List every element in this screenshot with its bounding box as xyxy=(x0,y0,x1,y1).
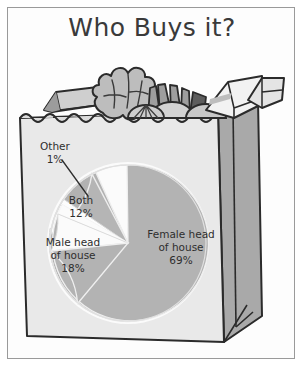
bag-side-panel xyxy=(218,100,262,342)
pie-label-female-percent: 69% xyxy=(134,254,228,267)
pie-label-male: Male head of house 18% xyxy=(32,236,114,274)
pie-label-both: Both 12% xyxy=(52,194,110,220)
poster-canvas: Who Buys it? Other 1% Both 12% Male head… xyxy=(0,0,304,368)
pie-label-male-line2: of house xyxy=(32,249,114,262)
pie-label-male-percent: 18% xyxy=(32,262,114,275)
pie-label-female-line2: of house xyxy=(134,241,228,254)
pie-label-female-line1: Female head xyxy=(134,228,228,241)
pie-label-other-percent: 1% xyxy=(26,153,84,166)
pie-label-both-percent: 12% xyxy=(52,207,110,220)
grocery-bag-illustration xyxy=(0,0,304,368)
page-title: Who Buys it? xyxy=(0,13,304,42)
pie-label-other-name: Other xyxy=(26,140,84,153)
pie-label-both-name: Both xyxy=(52,194,110,207)
pie-label-male-line1: Male head xyxy=(32,236,114,249)
pie-label-other: Other 1% xyxy=(26,140,84,166)
page-title-text: Who Buys it? xyxy=(68,13,235,42)
pie-label-female: Female head of house 69% xyxy=(134,228,228,266)
